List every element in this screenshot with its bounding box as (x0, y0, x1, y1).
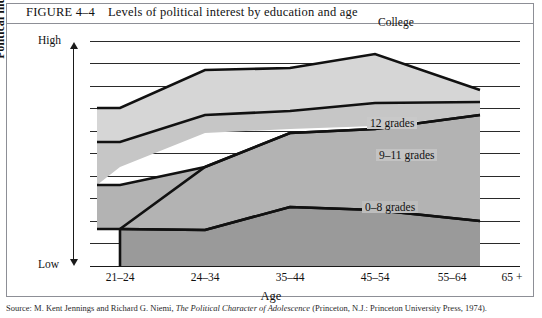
source-work-title: The Political Character of Adolescence (176, 303, 310, 313)
x-tick-35-44: 35–44 (276, 271, 305, 283)
figure-title-text: Levels of political interest by educatio… (108, 5, 358, 19)
x-tick-45-54: 45–54 (361, 271, 390, 283)
series-label-0-8-grades: 0–8 grades (362, 201, 418, 213)
y-axis-high-label: High (38, 34, 61, 46)
x-tick-21-24: 21–24 (106, 271, 135, 283)
figure-title: FIGURE 4–4Levels of political interest b… (26, 5, 358, 20)
source-publisher: (Princeton, N.J.: Princeton University P… (310, 303, 487, 313)
source-note: Source: M. Kent Jennings and Richard G. … (6, 303, 542, 313)
y-axis-low-label: Low (38, 258, 59, 270)
chart-series-svg (90, 41, 520, 267)
x-tick-55-64: 55–64 (438, 271, 467, 283)
series-label-college: College (378, 16, 414, 28)
series-label-9-11-grades: 9–11 grades (376, 149, 437, 161)
y-axis-title: Political interest scale (0, 0, 6, 78)
source-prefix: Source: M. Kent Jennings and Richard G. … (6, 303, 176, 313)
series-label-12-grades: 12 grades (367, 117, 417, 129)
plot-area: College 12 grades 9–11 grades 0–8 grades (90, 41, 520, 266)
x-axis-line (90, 266, 520, 267)
x-tick-24-34: 24–34 (191, 271, 220, 283)
x-tick-65-plus: 65 + (502, 271, 523, 283)
figure-number: FIGURE 4–4 (26, 5, 95, 19)
x-axis-title: Age (0, 289, 542, 304)
y-axis-arrow-icon (73, 48, 74, 260)
